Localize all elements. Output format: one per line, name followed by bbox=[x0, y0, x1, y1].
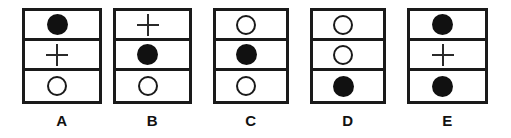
symbol-slot bbox=[432, 14, 454, 36]
option-label-d: D bbox=[342, 113, 353, 128]
option-grid bbox=[310, 8, 386, 104]
option-grid bbox=[113, 8, 192, 104]
filled-circle-icon bbox=[432, 76, 453, 97]
open-circle-icon bbox=[333, 15, 353, 35]
symbol-slot bbox=[235, 44, 257, 66]
grid-cell bbox=[216, 11, 286, 41]
filled-circle-icon bbox=[333, 76, 354, 97]
plus-icon bbox=[432, 44, 454, 66]
option-panel-d[interactable]: D bbox=[310, 8, 386, 128]
option-grid bbox=[407, 8, 488, 104]
symbol-slot bbox=[432, 44, 454, 66]
answer-options-figure: ABCDE bbox=[0, 0, 511, 138]
symbol-slot bbox=[332, 14, 354, 36]
plus-icon bbox=[46, 44, 68, 66]
symbol-slot bbox=[137, 44, 159, 66]
filled-circle-icon bbox=[236, 44, 257, 65]
grid-cell bbox=[216, 71, 286, 101]
option-panel-c[interactable]: C bbox=[213, 8, 289, 128]
option-label-b: B bbox=[147, 113, 158, 128]
grid-cell bbox=[116, 11, 189, 41]
grid-cell bbox=[116, 71, 189, 101]
filled-circle-icon bbox=[137, 44, 158, 65]
symbol-slot bbox=[137, 75, 159, 97]
grid-cell bbox=[410, 71, 485, 101]
open-circle-icon bbox=[236, 76, 256, 96]
grid-cell bbox=[25, 11, 99, 41]
option-label-c: C bbox=[245, 113, 256, 128]
option-panel-e[interactable]: E bbox=[407, 8, 488, 128]
open-circle-icon bbox=[333, 45, 353, 65]
grid-cell bbox=[313, 41, 383, 71]
option-panel-b[interactable]: B bbox=[113, 8, 192, 128]
symbol-slot bbox=[46, 44, 68, 66]
symbol-slot bbox=[332, 75, 354, 97]
grid-cell bbox=[313, 71, 383, 101]
option-label-a: A bbox=[56, 113, 67, 128]
symbol-slot bbox=[46, 75, 68, 97]
plus-icon bbox=[137, 14, 159, 36]
filled-circle-icon bbox=[47, 14, 68, 35]
grid-cell bbox=[313, 11, 383, 41]
symbol-slot bbox=[235, 14, 257, 36]
symbol-slot bbox=[46, 14, 68, 36]
grid-cell bbox=[25, 71, 99, 101]
option-panel-a[interactable]: A bbox=[22, 8, 102, 128]
open-circle-icon bbox=[236, 15, 256, 35]
grid-cell bbox=[216, 41, 286, 71]
option-grid bbox=[213, 8, 289, 104]
option-label-e: E bbox=[442, 113, 453, 128]
filled-circle-icon bbox=[432, 14, 453, 35]
grid-cell bbox=[25, 41, 99, 71]
option-grid bbox=[22, 8, 102, 104]
grid-cell bbox=[410, 11, 485, 41]
symbol-slot bbox=[332, 44, 354, 66]
open-circle-icon bbox=[138, 76, 158, 96]
symbol-slot bbox=[432, 75, 454, 97]
grid-cell bbox=[116, 41, 189, 71]
open-circle-icon bbox=[47, 76, 67, 96]
symbol-slot bbox=[137, 14, 159, 36]
symbol-slot bbox=[235, 75, 257, 97]
grid-cell bbox=[410, 41, 485, 71]
